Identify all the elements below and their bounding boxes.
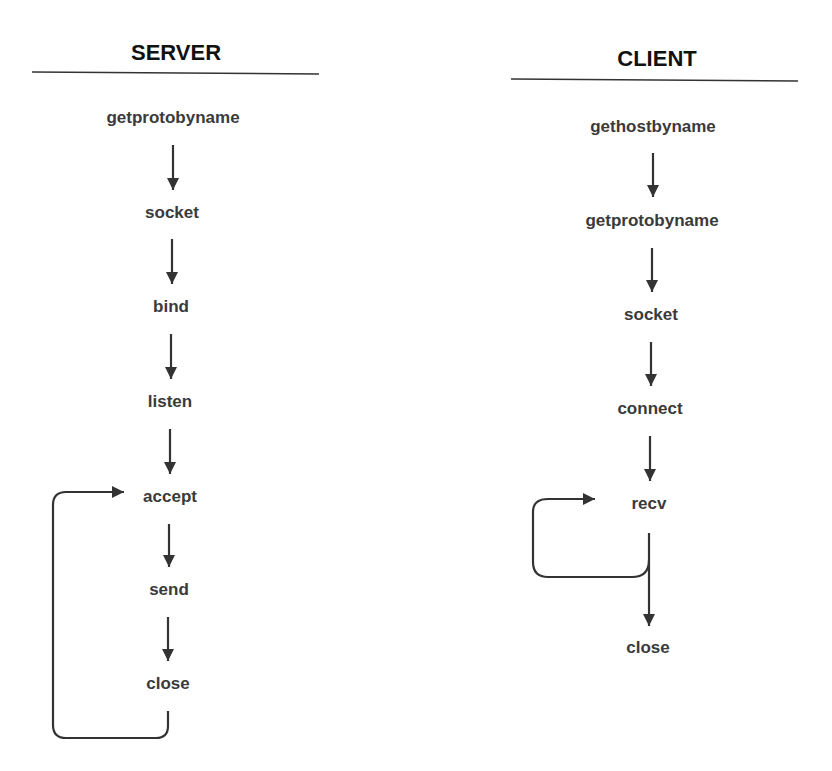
server-header-rule	[32, 72, 319, 74]
client-header-rule	[511, 79, 798, 81]
client-title: CLIENT	[617, 46, 696, 72]
server-step-close: close	[146, 674, 189, 694]
server-step-bind: bind	[153, 297, 189, 317]
server-title: SERVER	[131, 40, 221, 66]
client-step-recv: recv	[632, 494, 667, 514]
client-step-close: close	[626, 638, 669, 658]
client-step-connect: connect	[617, 399, 682, 419]
server-step-socket: socket	[145, 203, 199, 223]
server-step-listen: listen	[148, 392, 192, 412]
client-step-getprotobyname: getprotobyname	[585, 211, 718, 231]
client-step-socket: socket	[624, 305, 678, 325]
server-step-accept: accept	[143, 487, 197, 507]
server-step-getprotobyname: getprotobyname	[106, 108, 239, 128]
server-step-send: send	[149, 580, 189, 600]
server-loop-arrow	[53, 492, 168, 738]
client-step-gethostbyname: gethostbyname	[590, 117, 716, 137]
